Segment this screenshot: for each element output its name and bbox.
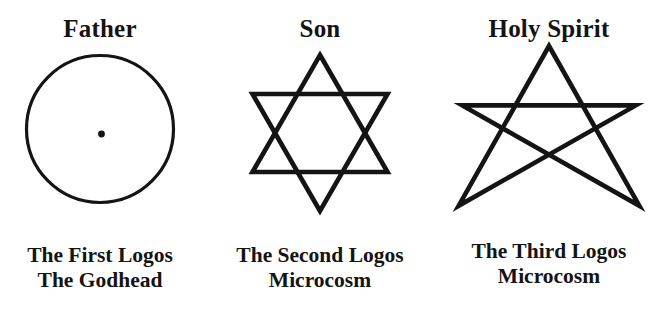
caption-holy-spirit-line1: The Third Logos — [472, 239, 627, 263]
three-logos-diagram: Father The First Logos The Godhead Son T… — [0, 0, 658, 317]
column-heading-son: Son — [300, 16, 341, 41]
hexagram-upward-triangle — [253, 55, 388, 172]
caption-son-line2: Microcosm — [236, 268, 403, 293]
symbol-slot-father — [0, 45, 200, 233]
symbol-slot-holy-spirit — [440, 41, 658, 229]
hexagram-downward-triangle — [253, 94, 388, 211]
caption-father-line1: The First Logos — [27, 243, 173, 267]
column-father: Father The First Logos The Godhead — [0, 0, 200, 317]
caption-holy-spirit-line2: Microcosm — [472, 264, 627, 289]
pentagram-outline — [459, 46, 640, 206]
caption-father-line2: The Godhead — [27, 268, 173, 293]
caption-holy-spirit: The Third Logos Microcosm — [472, 239, 627, 290]
caption-son-line1: The Second Logos — [236, 243, 403, 267]
column-son: Son The Second Logos Microcosm — [215, 0, 425, 317]
symbol-slot-son — [215, 47, 425, 235]
caption-son: The Second Logos Microcosm — [236, 243, 403, 294]
circle-with-center-dot-icon — [20, 45, 180, 215]
center-dot — [98, 131, 105, 138]
column-holy-spirit: Holy Spirit The Third Logos Microcosm — [440, 0, 658, 317]
column-heading-holy-spirit: Holy Spirit — [489, 16, 610, 41]
pentagram-icon — [451, 41, 647, 231]
column-heading-father: Father — [63, 16, 136, 41]
circle-outline — [27, 56, 174, 203]
hexagram-icon — [240, 47, 400, 217]
caption-father: The First Logos The Godhead — [27, 243, 173, 294]
